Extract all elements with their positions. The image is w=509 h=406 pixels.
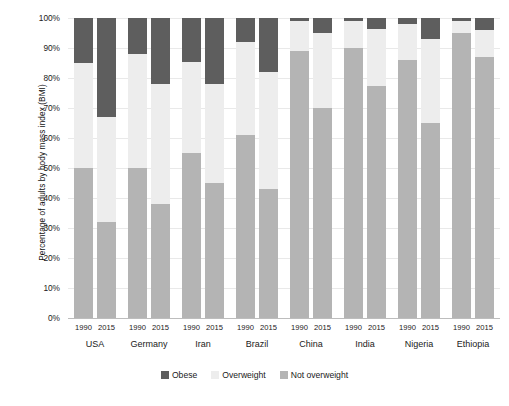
segment-obese [182, 18, 201, 62]
segment-not-overweight [74, 168, 93, 318]
segment-obese [398, 18, 417, 24]
segment-not-overweight [475, 57, 494, 318]
legend-item-overweight[interactable]: Overweight [211, 370, 265, 380]
chart-legend: ObeseOverweightNot overweight [0, 370, 509, 380]
segment-overweight [290, 21, 309, 51]
segment-not-overweight [151, 204, 170, 318]
bar-ethiopia-2015 [475, 18, 494, 318]
segment-not-overweight [205, 183, 224, 318]
bar-iran-2015 [205, 18, 224, 318]
segment-obese [313, 18, 332, 33]
legend-swatch-not-overweight [280, 371, 288, 379]
segment-overweight [236, 42, 255, 135]
segment-not-overweight [313, 108, 332, 318]
y-axis-tick-40: 40% [43, 193, 60, 203]
segment-obese [151, 18, 170, 84]
y-axis-tick-30: 30% [43, 223, 60, 233]
bar-china-1990 [290, 18, 309, 318]
segment-obese [344, 18, 363, 21]
bar-ethiopia-1990 [452, 18, 471, 318]
segment-obese [259, 18, 278, 72]
segment-overweight [151, 84, 170, 204]
bar-india-1990 [344, 18, 363, 318]
legend-swatch-obese [161, 371, 169, 379]
segment-overweight [367, 29, 386, 86]
y-axis-tick-80: 80% [43, 73, 60, 83]
bar-germany-1990 [128, 18, 147, 318]
segment-overweight [259, 72, 278, 189]
segment-obese [290, 18, 309, 21]
x-axis-country-ethiopia: Ethiopia [423, 339, 509, 349]
segment-overweight [475, 30, 494, 57]
segment-obese [97, 18, 116, 117]
bar-nigeria-2015 [421, 18, 440, 318]
y-axis-tick-0: 0% [48, 313, 60, 323]
bar-brazil-1990 [236, 18, 255, 318]
segment-not-overweight [398, 60, 417, 318]
segment-overweight [452, 21, 471, 33]
y-axis-tick-10: 10% [43, 283, 60, 293]
bar-nigeria-1990 [398, 18, 417, 318]
segment-not-overweight [182, 153, 201, 318]
segment-obese [74, 18, 93, 63]
y-axis-tick-90: 90% [43, 43, 60, 53]
bar-usa-2015 [97, 18, 116, 318]
segment-not-overweight [452, 33, 471, 318]
segment-not-overweight [97, 222, 116, 318]
bar-brazil-2015 [259, 18, 278, 318]
segment-not-overweight [421, 123, 440, 318]
bar-china-2015 [313, 18, 332, 318]
segment-obese [205, 18, 224, 84]
bar-iran-1990 [182, 18, 201, 318]
bmi-stacked-bar-chart: Percentage of adults by body mass index … [0, 0, 509, 406]
segment-overweight [313, 33, 332, 108]
legend-item-not-overweight[interactable]: Not overweight [280, 370, 348, 380]
y-axis-tick-50: 50% [43, 163, 60, 173]
segment-not-overweight [367, 86, 386, 319]
y-axis-tick-labels: 100%90%80%70%60%50%40%30%20%10%0% [0, 18, 64, 318]
legend-label: Obese [172, 370, 197, 380]
segment-obese [475, 18, 494, 30]
bar-germany-2015 [151, 18, 170, 318]
segment-overweight [182, 62, 201, 154]
segment-not-overweight [259, 189, 278, 318]
x-axis-labels: 19902015USA19902015Germany19902015Iran19… [68, 318, 500, 366]
segment-obese [367, 18, 386, 29]
legend-label: Overweight [222, 370, 265, 380]
plot-area [68, 18, 500, 318]
segment-overweight [97, 117, 116, 222]
segment-not-overweight [290, 51, 309, 318]
bar-india-2015 [367, 18, 386, 318]
bar-usa-1990 [74, 18, 93, 318]
segment-obese [128, 18, 147, 54]
x-axis-year-ethiopia-2015: 2015 [465, 323, 505, 332]
segment-overweight [74, 63, 93, 168]
segment-not-overweight [236, 135, 255, 318]
segment-not-overweight [128, 168, 147, 318]
segment-obese [236, 18, 255, 42]
segment-obese [452, 18, 471, 21]
segment-overweight [398, 24, 417, 60]
segment-overweight [421, 39, 440, 123]
legend-item-obese[interactable]: Obese [161, 370, 197, 380]
segment-obese [421, 18, 440, 39]
legend-label: Not overweight [291, 370, 348, 380]
segment-overweight [344, 21, 363, 48]
y-axis-tick-70: 70% [43, 103, 60, 113]
y-axis-tick-20: 20% [43, 253, 60, 263]
segment-overweight [205, 84, 224, 183]
y-axis-tick-60: 60% [43, 133, 60, 143]
y-axis-tick-100: 100% [39, 13, 60, 23]
segment-not-overweight [344, 48, 363, 318]
segment-overweight [128, 54, 147, 168]
legend-swatch-overweight [211, 371, 219, 379]
